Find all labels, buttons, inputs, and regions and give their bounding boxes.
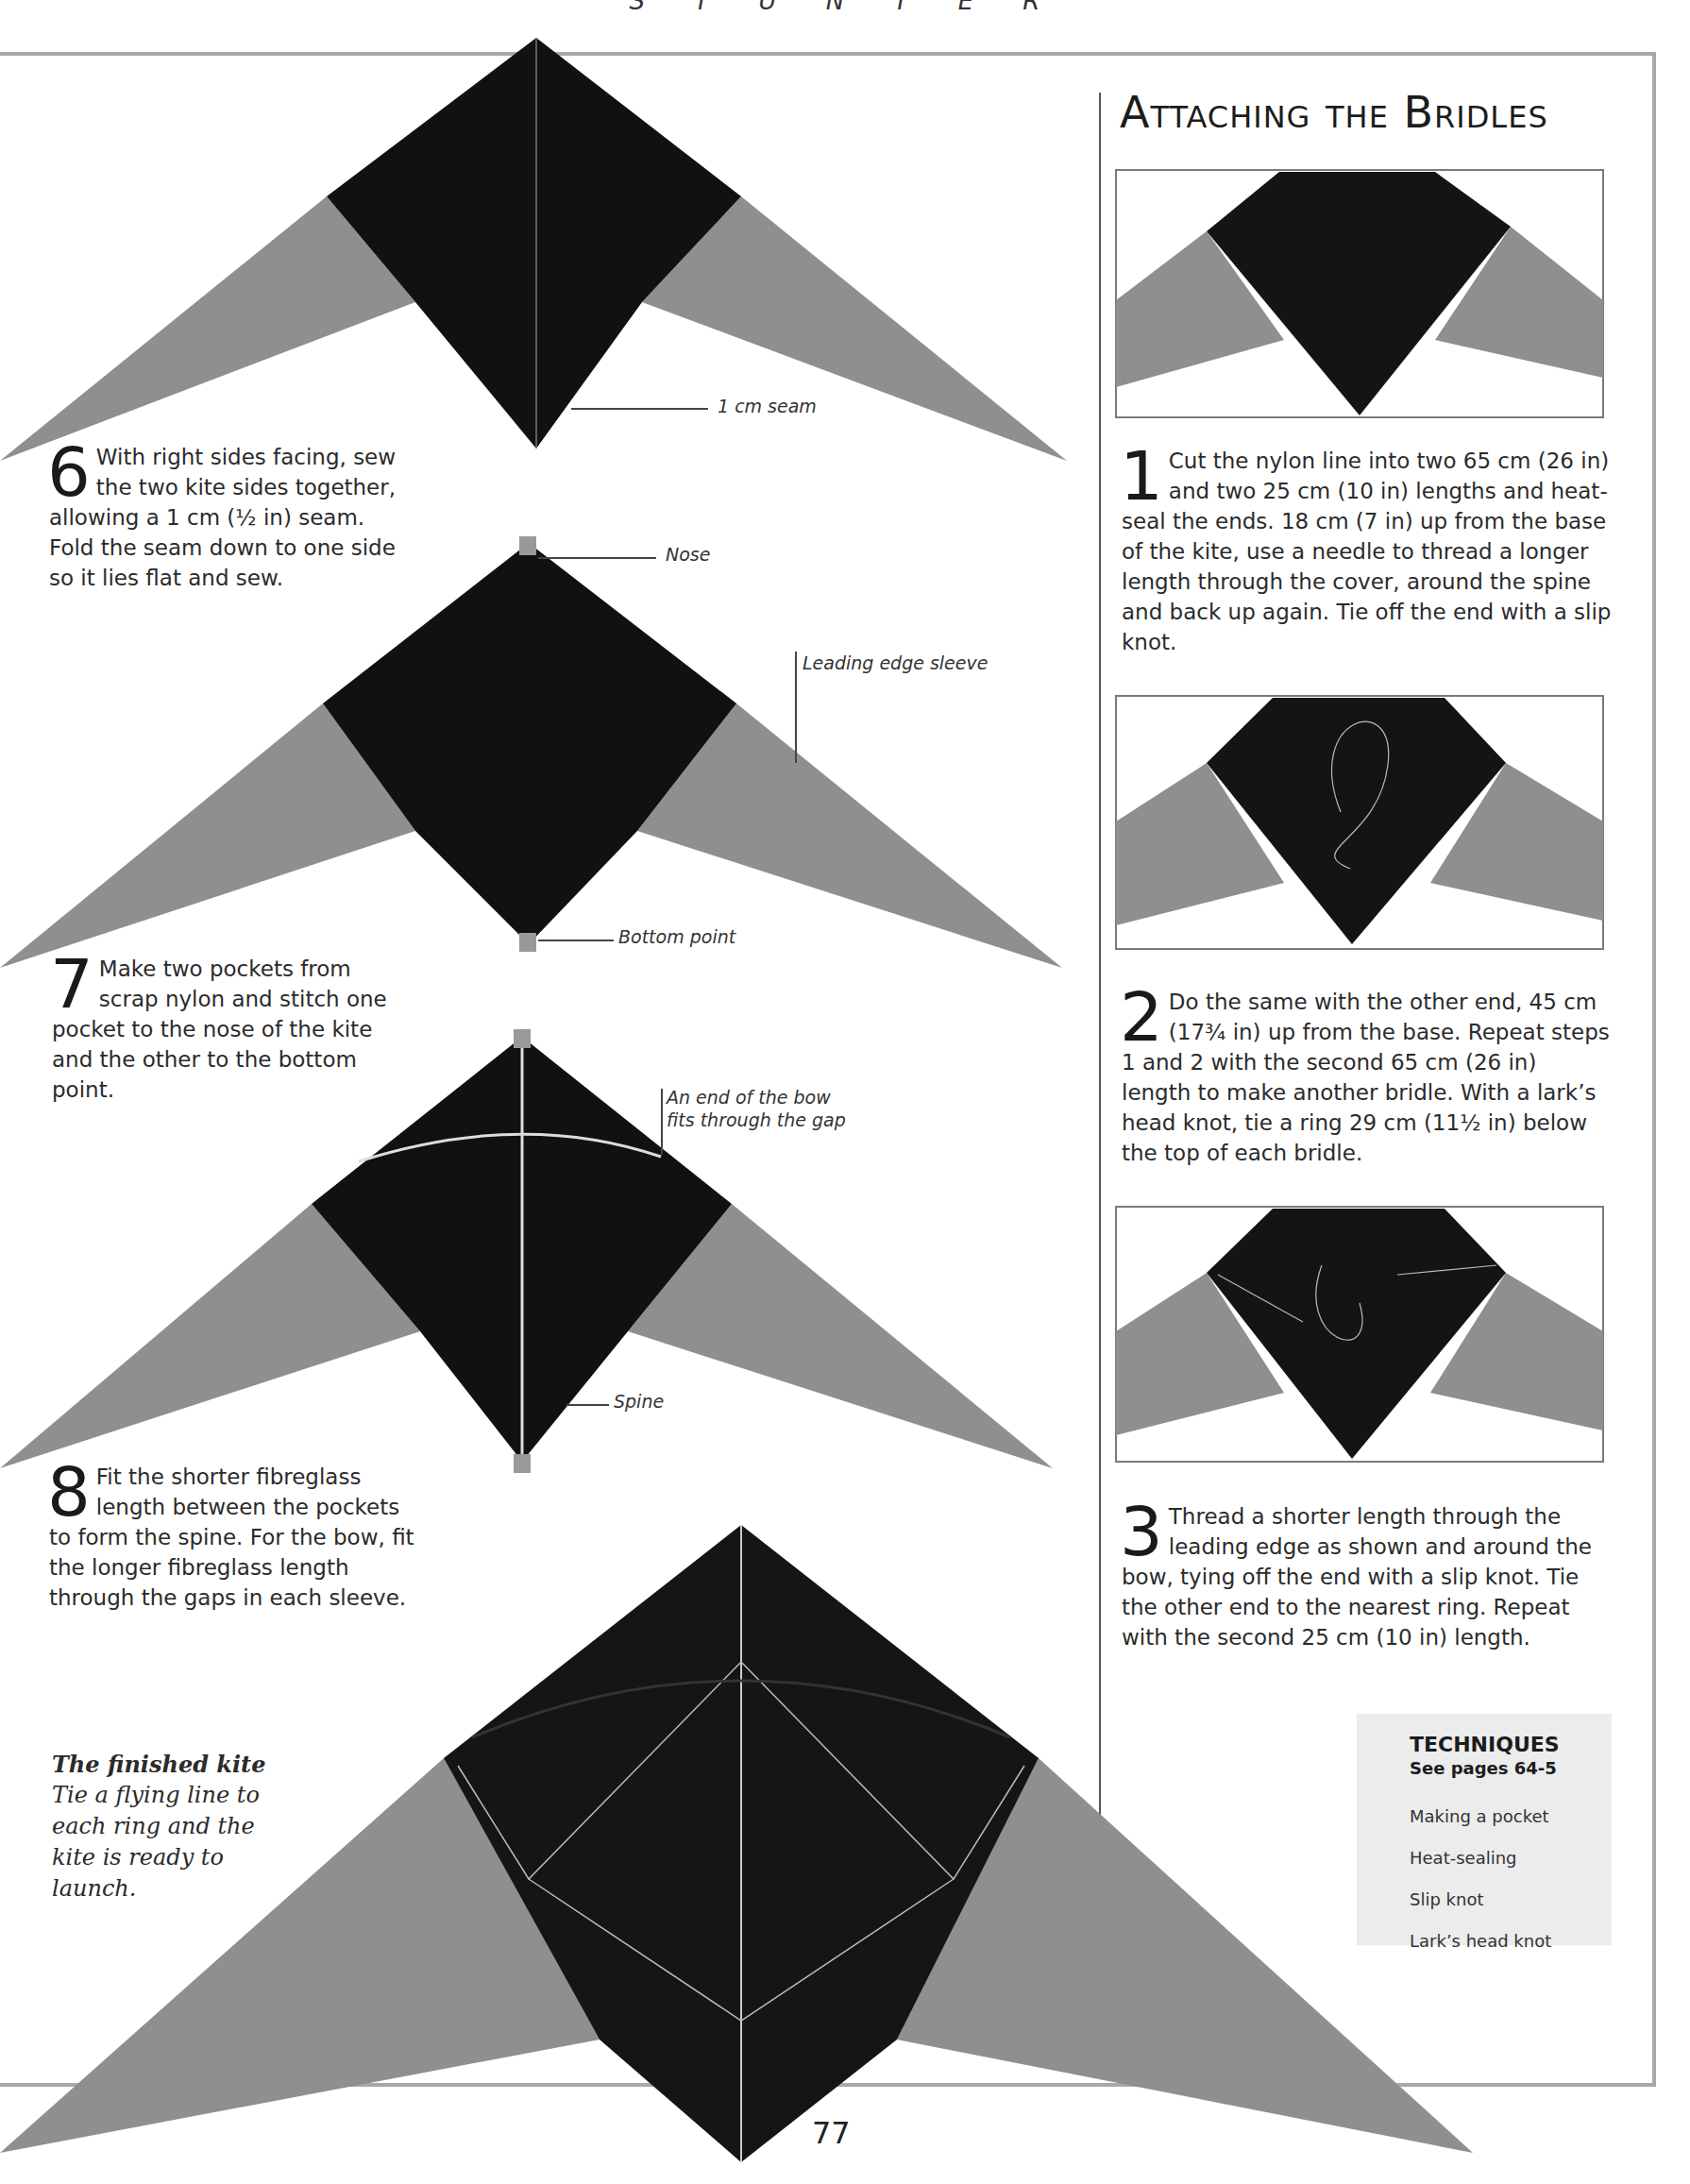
techniques-title: TECHNIQUES	[1410, 1733, 1560, 1756]
technique-item: Slip knot	[1410, 1889, 1483, 1909]
technique-item: Heat-sealing	[1410, 1848, 1517, 1868]
callout-leading-edge: Leading edge sleeve	[803, 652, 988, 674]
techniques-box: TECHNIQUES See pages 64-5 Making a pocke…	[1357, 1714, 1612, 1945]
callout-bow-end: An end of the bow fits through the gap	[667, 1086, 846, 1131]
callout-line-leading-edge	[795, 652, 797, 763]
callout-line-spine	[566, 1404, 609, 1406]
finished-kite-caption: The finished kite Tie a flying line to e…	[52, 1749, 297, 1905]
bridle-step-3-number: 3	[1120, 1503, 1163, 1560]
callout-spine: Spine	[614, 1390, 664, 1413]
bridle-step-2-text: Do the same with the other end, 45 cm (1…	[1122, 990, 1610, 1165]
finished-kite-text: Tie a flying line to each ring and the k…	[52, 1780, 297, 1905]
bridle-step-1-number: 1	[1120, 448, 1163, 504]
techniques-subtitle: See pages 64-5	[1410, 1758, 1557, 1778]
callout-bow-end-line1: An end of the bow	[667, 1086, 846, 1109]
step-8: 8 Fit the shorter fibreglass length betw…	[49, 1462, 427, 1613]
section-title: Attaching the Bridles	[1120, 87, 1548, 138]
bridle-photo-2-image	[1116, 696, 1603, 949]
bridle-step-2: 2 Do the same with the other end, 45 cm …	[1122, 987, 1613, 1168]
callout-bottom-point: Bottom point	[618, 925, 735, 948]
bridle-photo-1-image	[1116, 170, 1603, 417]
callout-line-bow-end	[661, 1089, 663, 1155]
kite-step6-image	[0, 38, 1067, 461]
callout-bow-end-line2: fits through the gap	[667, 1109, 846, 1131]
step-7-number: 7	[50, 956, 93, 1012]
finished-kite-heading: The finished kite	[52, 1749, 297, 1780]
bridle-step-1: 1 Cut the nylon line into two 65 cm (26 …	[1122, 446, 1613, 657]
bridle-step-2-number: 2	[1120, 989, 1163, 1045]
kite-step7-image	[0, 536, 1062, 968]
technique-item: Making a pocket	[1410, 1806, 1549, 1826]
callout-line-nose	[538, 557, 656, 559]
bridle-step-1-text: Cut the nylon line into two 65 cm (26 in…	[1122, 449, 1611, 654]
bridle-step-3-text: Thread a shorter length through the lead…	[1122, 1504, 1592, 1650]
callout-line-bottom-point	[538, 940, 614, 941]
bridle-photo-3-image	[1116, 1207, 1603, 1462]
step-8-text-start: Fit the shorter fibreglass length betwee…	[96, 1464, 399, 1519]
step-7: 7 Make two pockets from scrap nylon and …	[52, 954, 415, 1105]
page-number: 77	[812, 2115, 851, 2151]
step-8-number: 8	[47, 1464, 91, 1520]
bridle-step-3: 3 Thread a shorter length through the le…	[1122, 1501, 1594, 1652]
step-6-text-start: With right sides facing, sew the two kit…	[96, 445, 396, 499]
callout-nose: Nose	[666, 543, 710, 566]
step-6: 6 With right sides facing, sew the two k…	[49, 442, 408, 593]
step-6-text-rest: allowing a 1 cm (½ in) seam. Fold the se…	[49, 505, 396, 590]
step-8-text-rest: to form the spine. For the bow, fit the …	[49, 1525, 414, 1610]
technique-item: Lark’s head knot	[1410, 1931, 1551, 1951]
callout-line-seam	[571, 408, 708, 410]
step-6-number: 6	[47, 444, 91, 500]
callout-seam: 1 cm seam	[718, 395, 817, 417]
